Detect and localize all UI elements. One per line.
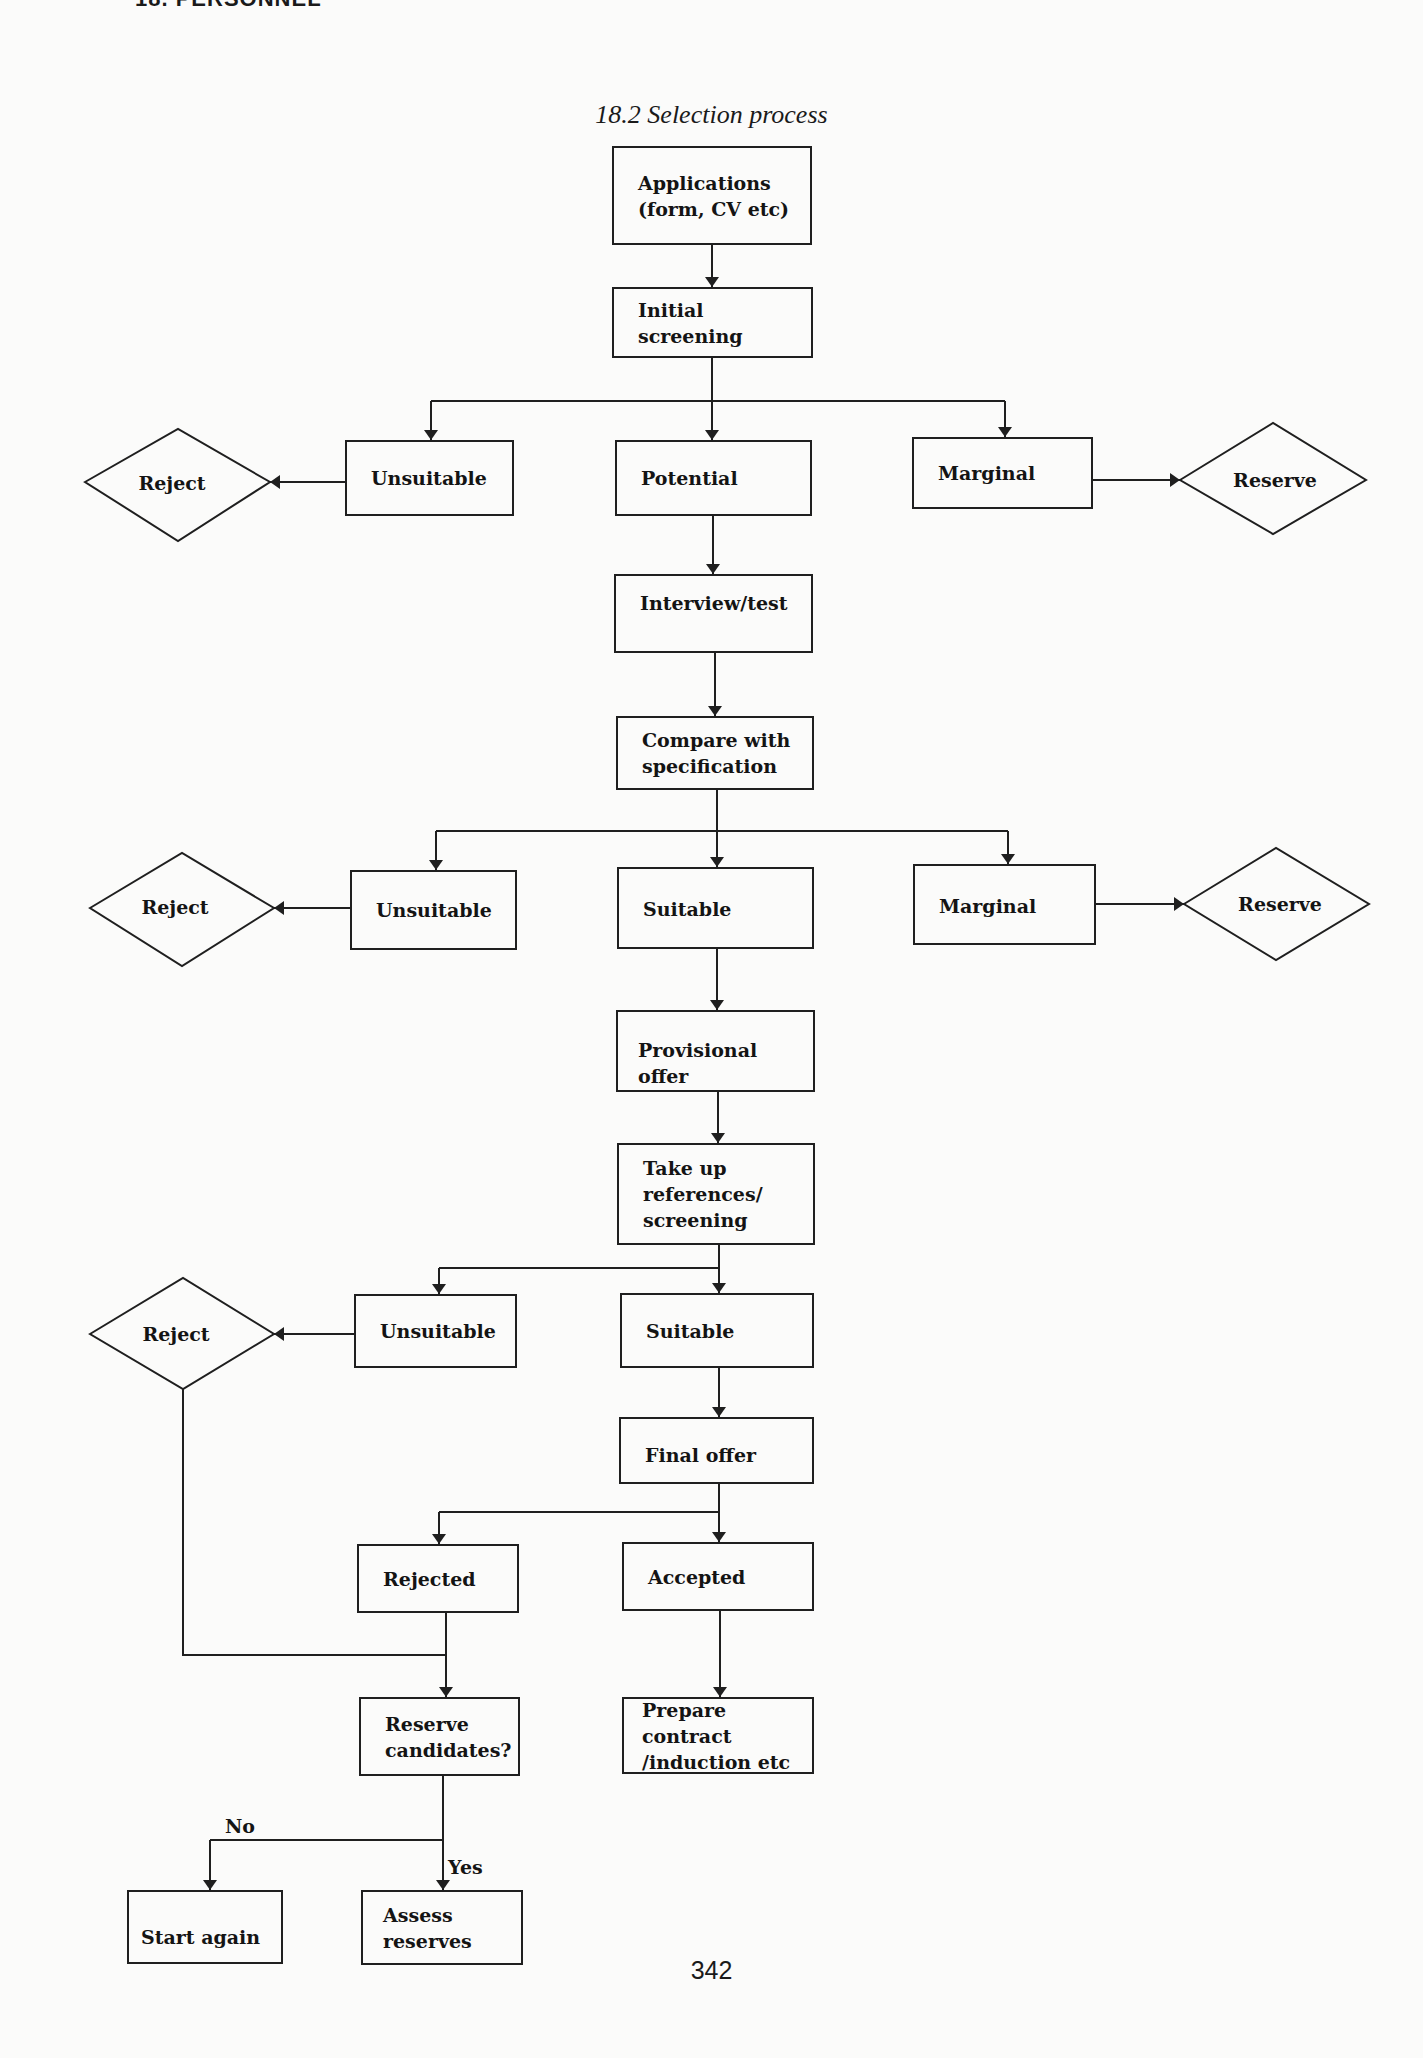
final-offer-box: Final offer (619, 1417, 814, 1484)
compare-with-specification-box: Compare with specification (616, 716, 814, 790)
accepted-box: Accepted (622, 1542, 814, 1611)
unsuitable-box-3: Unsuitable (354, 1294, 517, 1368)
assess-reserves-box: Assess reserves (361, 1890, 523, 1965)
provisional-offer-box: Provisional offer (616, 1010, 815, 1092)
no-branch-label: No (225, 1815, 255, 1837)
marginal-box-2: Marginal (913, 864, 1096, 945)
reject-label-3: Reject (142, 1323, 209, 1345)
initial-screening-box: Initial screening (612, 287, 813, 358)
rejected-box: Rejected (357, 1544, 519, 1613)
applications-box: Applications (form, CV etc) (612, 146, 812, 245)
reserve-label-2: Reserve (1238, 893, 1322, 915)
unsuitable-box-2: Unsuitable (350, 870, 517, 950)
reserve-candidates-box: Reserve candidates? (359, 1697, 520, 1776)
page-number: 342 (0, 1956, 1423, 1985)
start-again-box: Start again (127, 1890, 283, 1964)
take-up-references-box: Take up references/ screening (617, 1143, 815, 1245)
reserve-label-1: Reserve (1233, 469, 1317, 491)
reject-label-1: Reject (138, 472, 205, 494)
marginal-box-1: Marginal (912, 437, 1093, 509)
suitable-box-3: Suitable (620, 1293, 814, 1368)
prepare-contract-box: Prepare contract /induction etc (622, 1697, 814, 1774)
potential-box: Potential (615, 440, 812, 516)
interview-test-box: Interview/test (614, 574, 813, 653)
suitable-box-2: Suitable (617, 867, 814, 949)
unsuitable-box-1: Unsuitable (345, 440, 514, 516)
reject-label-2: Reject (141, 896, 208, 918)
yes-branch-label: Yes (448, 1856, 483, 1878)
